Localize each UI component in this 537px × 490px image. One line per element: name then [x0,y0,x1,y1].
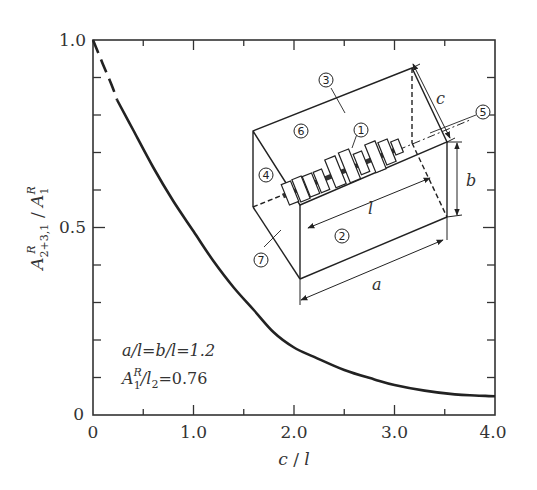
x-tick-2: 2.0 [280,422,307,442]
dim-b-label: b [466,171,476,190]
y-tick-0: 0 [73,404,84,424]
svg-text:2: 2 [339,230,346,243]
part-label-7: 7 [254,253,268,267]
svg-text:3: 3 [323,74,330,87]
svg-text:6: 6 [298,125,305,138]
svg-text:1: 1 [358,124,365,137]
chart-figure: 0 1.0 2.0 3.0 4.0 0 0.5 1.0 c / l A2+3,1… [0,0,537,490]
dim-l-label: l [368,199,373,218]
part-label-1: 1 [354,123,368,137]
part-label-6: 6 [294,124,308,138]
part-label-3: 3 [319,73,333,87]
x-tick-1: 1.0 [180,422,207,442]
x-tick-labels: 0 1.0 2.0 3.0 4.0 [88,422,507,442]
x-tick-0: 0 [88,422,99,442]
svg-text:4: 4 [263,169,270,182]
part-label-2: 2 [335,229,349,243]
part-label-5: 5 [476,105,490,119]
annotation-ratio: a/l=b/l=1.2 [122,341,215,360]
y-axis-label: A2+3,1R / A1R [25,186,51,271]
y-tick-labels: 0 0.5 1.0 [59,30,86,424]
x-tick-4: 4.0 [479,422,506,442]
svg-text:7: 7 [258,254,265,267]
y-tick-1: 0.5 [59,217,86,237]
svg-text:5: 5 [480,106,487,119]
annotation-amplitude: AR1/l2=0.76 [120,366,207,392]
x-axis-label: c / l [278,449,310,469]
dim-a-label: a [372,275,382,294]
dim-c-label: c [436,89,445,108]
x-tick-3: 3.0 [381,422,408,442]
part-label-4: 4 [259,168,273,182]
curve-dashed-segment [93,40,117,100]
y-tick-2: 1.0 [59,30,86,50]
